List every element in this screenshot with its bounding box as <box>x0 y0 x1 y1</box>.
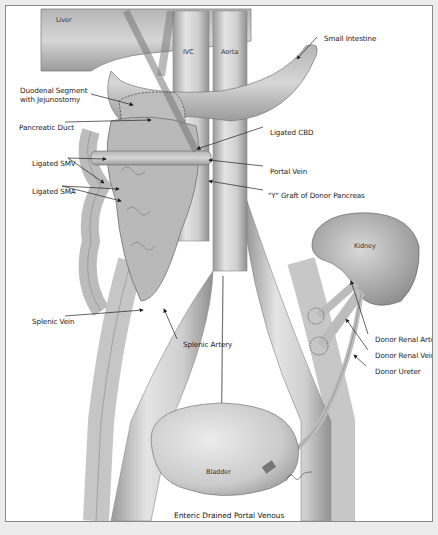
splenic-vein-label: Splenic Vein <box>32 317 74 326</box>
duodenal-segment-label-line2: with Jejunostomy <box>20 95 80 104</box>
liver-label: Liver <box>56 16 72 25</box>
donor-renal-artery-label: Donor Renal Artery <box>375 335 433 344</box>
small-intestine-label: Small Intestine <box>324 34 376 43</box>
ligated-smv-label: Ligated SMV <box>32 159 76 168</box>
figure-caption: Enteric Drained Portal Venous <box>174 511 284 520</box>
ligated-sma-label: Ligated SMA <box>32 187 76 196</box>
ivc-label: IVC <box>183 48 194 57</box>
duodenal-segment-label-line1: Duodenal Segment <box>20 86 87 95</box>
donor-ureter-label: Donor Ureter <box>375 367 421 376</box>
pancreatic-duct-label: Pancreatic Duct <box>19 123 74 132</box>
anatomy-illustration <box>6 6 433 522</box>
bladder-label: Bladder <box>206 468 231 477</box>
figure-frame: Liver IVC Aorta Kidney Bladder Small Int… <box>5 5 433 522</box>
y-graft-label: "Y" Graft of Donor Pancreas <box>268 191 365 200</box>
kidney-label: Kidney <box>354 242 376 251</box>
splenic-artery-label: Splenic Artery <box>183 340 232 349</box>
portal-vein-label: Portal Vein <box>270 167 307 176</box>
ligated-cbd-label: Ligated CBD <box>270 128 313 137</box>
aorta-label: Aorta <box>221 48 238 57</box>
donor-renal-vein-label: Donor Renal Vein <box>375 351 433 360</box>
